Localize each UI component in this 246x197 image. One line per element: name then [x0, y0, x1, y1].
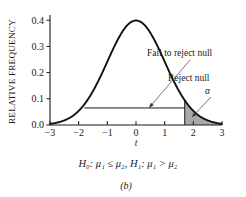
x-tick-label: 3	[220, 127, 225, 138]
annotation-alpha: α	[205, 86, 211, 96]
x-tick-label: 1	[162, 127, 167, 138]
y-tick-label: 0.0	[32, 119, 45, 130]
y-tick-label: 0.3	[32, 41, 45, 52]
y-tick-label: 0.1	[32, 93, 45, 104]
x-axis-title: t	[135, 138, 138, 148]
x-tick-label: −2	[73, 127, 84, 138]
y-axis-tick-labels: 0.00.10.20.30.4	[32, 15, 45, 131]
figure-panel: 0.00.10.20.30.4 −3−2−10123 RELATIVE FREQ…	[0, 0, 246, 197]
annotation-reject-null: Reject null	[168, 73, 210, 83]
hypothesis-statement: H₀: μ₁ ≤ μ₂, H₁: μ₁ > μ₂	[78, 158, 178, 169]
y-axis-title: RELATIVE FREQUENCY	[7, 19, 17, 124]
fail-to-reject-leader-line	[149, 60, 190, 108]
alpha-leader	[192, 97, 211, 117]
x-axis-tick-labels: −3−2−10123	[45, 127, 225, 138]
x-tick-label: −3	[45, 127, 56, 138]
x-tick-label: 2	[191, 127, 196, 138]
fail-to-reject-leader	[149, 60, 190, 108]
x-tick-label: −1	[102, 127, 113, 138]
x-tick-label: 0	[134, 127, 139, 138]
y-tick-label: 0.2	[32, 67, 45, 78]
figure-caption: (b)	[120, 180, 132, 192]
statistics-chart: 0.00.10.20.30.4 −3−2−10123 RELATIVE FREQ…	[0, 0, 246, 197]
y-tick-label: 0.4	[32, 15, 45, 26]
annotation-fail-to-reject-null: Fail to reject null	[147, 48, 213, 58]
rejection-region-shading	[185, 100, 222, 125]
